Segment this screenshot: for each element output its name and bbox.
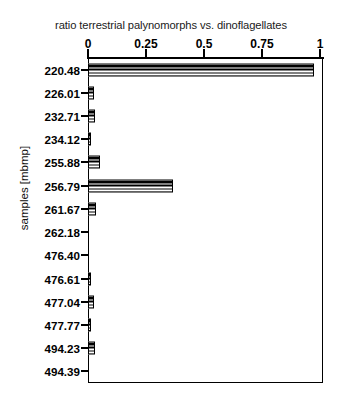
bar-row: 226.01 xyxy=(0,81,342,104)
bar xyxy=(88,295,94,308)
y-tick-label: 261.67 xyxy=(18,202,80,215)
bar-row: 476.61 xyxy=(0,267,342,290)
y-tick-label: 226.01 xyxy=(18,86,80,99)
bar xyxy=(88,202,96,215)
bar xyxy=(88,318,91,331)
bar-row: 477.77 xyxy=(0,313,342,336)
bar xyxy=(88,272,91,285)
bar-row: 477.04 xyxy=(0,290,342,313)
y-axis-tick xyxy=(81,254,89,256)
y-axis-tick xyxy=(81,231,89,233)
bar-row: 262.18 xyxy=(0,221,342,244)
y-tick-label: 255.88 xyxy=(18,156,80,169)
y-tick-label: 477.04 xyxy=(18,295,80,308)
chart-title: ratio terrestrial palynomorphs vs. dinof… xyxy=(0,19,342,31)
bar-row: 255.88 xyxy=(0,151,342,174)
y-tick-label: 476.61 xyxy=(18,272,80,285)
bar xyxy=(88,179,173,192)
y-tick-label: 476.40 xyxy=(18,249,80,262)
bar-row: 494.39 xyxy=(0,360,342,383)
y-tick-label: 494.39 xyxy=(18,365,80,378)
y-tick-label: 262.18 xyxy=(18,226,80,239)
y-tick-label: 232.71 xyxy=(18,110,80,123)
bar xyxy=(88,133,91,146)
y-tick-label: 477.77 xyxy=(18,318,80,331)
y-tick-label: 256.79 xyxy=(18,179,80,192)
y-tick-label: 494.23 xyxy=(18,342,80,355)
bar-row: 232.71 xyxy=(0,104,342,127)
y-tick-label: 220.48 xyxy=(18,63,80,76)
bar-row: 261.67 xyxy=(0,197,342,220)
bar xyxy=(88,156,100,169)
bar xyxy=(88,86,94,99)
y-tick-label: 234.12 xyxy=(18,133,80,146)
y-axis-tick xyxy=(81,370,89,372)
bar-row: 220.48 xyxy=(0,58,342,81)
bar xyxy=(88,63,314,76)
bar-chart: ratio terrestrial palynomorphs vs. dinof… xyxy=(0,0,342,400)
bar-row: 234.12 xyxy=(0,128,342,151)
bar-row: 256.79 xyxy=(0,174,342,197)
bar xyxy=(88,342,95,355)
bar-row: 476.40 xyxy=(0,244,342,267)
bar-row: 494.23 xyxy=(0,337,342,360)
bar xyxy=(88,110,95,123)
